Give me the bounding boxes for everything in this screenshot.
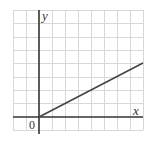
grid-lines [13, 10, 144, 131]
coordinate-plane [0, 0, 154, 150]
origin-label: 0 [29, 119, 35, 131]
y-axis-label: y [42, 9, 48, 22]
x-axis-label: x [133, 104, 139, 117]
